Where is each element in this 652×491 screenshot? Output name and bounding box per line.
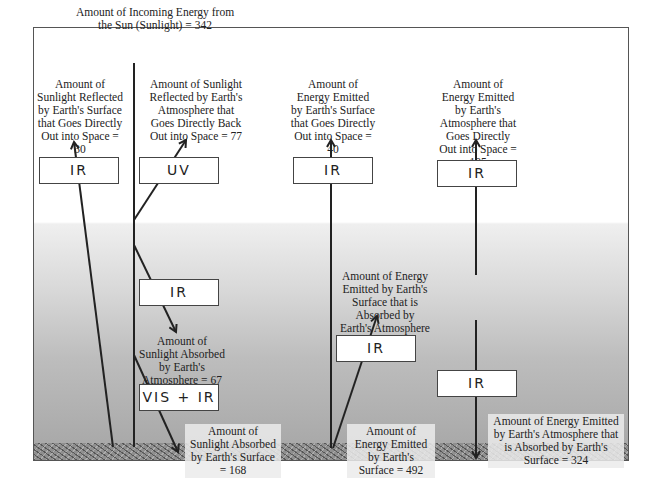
surface-emitted-total-label: Amount of Energy Emitted by Earth's Surf… [347, 424, 435, 478]
atm-emitted-surface-wavelength-box[interactable]: IR [437, 370, 517, 397]
atmosphere-emitted-space-wavelength-box[interactable]: IR [437, 160, 517, 187]
incoming-energy-label: Amount of Incoming Energy from the Sun (… [70, 6, 240, 32]
surface-reflected-label: Amount of Sunlight Reflected by Earth's … [36, 78, 124, 156]
sunlight-absorbed-atm-wavelength-box[interactable]: IR [139, 279, 219, 306]
sunlight-absorbed-surface-wavelength-box[interactable]: VIS + IR [139, 384, 219, 411]
surface-reflected-wavelength-box[interactable]: IR [39, 157, 119, 184]
surface-emitted-absorbed-atm-wavelength-box[interactable]: IR [336, 335, 416, 362]
sunlight-absorbed-atm-label: Amount of Sunlight Absorbed by Earth's A… [137, 335, 227, 387]
atmosphere-reflected-label: Amount of Sunlight Reflected by Earth's … [148, 78, 244, 143]
surface-emitted-space-label: Amount of Energy Emitted by Earth's Surf… [290, 78, 376, 156]
sunlight-absorbed-surface-label: Amount of Sunlight Absorbed by Earth's S… [185, 424, 281, 478]
atm-emitted-absorbed-surface-label: Amount of Energy Emitted by Earth's Atmo… [488, 414, 624, 468]
atmosphere-reflected-wavelength-box[interactable]: UV [139, 157, 219, 184]
surface-emitted-space-wavelength-box[interactable]: IR [293, 157, 373, 184]
atmosphere-emitted-space-label: Amount of Energy Emitted by Earth's Atmo… [436, 78, 520, 169]
